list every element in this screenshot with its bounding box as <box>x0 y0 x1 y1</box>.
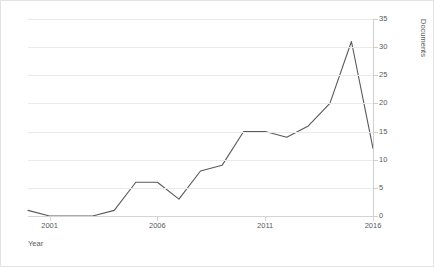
gridline-5 <box>28 188 373 189</box>
y-tick-label-5: 5 <box>379 184 383 192</box>
x-tick-label-2016: 2016 <box>353 221 393 230</box>
y-tick-mark-15 <box>374 132 378 133</box>
documents-line-series <box>28 19 373 216</box>
y-axis-title: Documents <box>419 19 431 119</box>
y-tick-mark-0 <box>374 216 378 217</box>
y-tick-label-10: 10 <box>379 156 387 164</box>
y-tick-mark-5 <box>374 188 378 189</box>
chart-figure: 05101520253035 2001200620112016 Document… <box>0 0 434 267</box>
gridline-25 <box>28 75 373 76</box>
y-tick-label-20: 20 <box>379 99 387 107</box>
gridline-35 <box>28 19 373 20</box>
y-tick-mark-20 <box>374 103 378 104</box>
x-tick-mark-2006 <box>157 217 158 221</box>
x-tick-mark-2011 <box>265 217 266 221</box>
x-axis-title: Year <box>28 239 43 248</box>
gridline-30 <box>28 47 373 48</box>
y-axis-title-text: Documents <box>419 19 428 57</box>
y-tick-mark-30 <box>374 47 378 48</box>
y-tick-label-15: 15 <box>379 128 387 136</box>
x-tick-label-2011: 2011 <box>245 221 285 230</box>
x-tick-mark-2016 <box>373 217 374 221</box>
x-axis-line <box>28 216 374 217</box>
x-tick-label-2001: 2001 <box>30 221 70 230</box>
y-axis-line <box>373 19 374 217</box>
line-path <box>28 42 373 216</box>
y-tick-label-0: 0 <box>379 212 383 220</box>
gridline-20 <box>28 103 373 104</box>
y-tick-mark-25 <box>374 75 378 76</box>
gridline-15 <box>28 132 373 133</box>
y-tick-mark-10 <box>374 160 378 161</box>
y-tick-label-35: 35 <box>379 15 387 23</box>
y-tick-label-25: 25 <box>379 71 387 79</box>
y-tick-mark-35 <box>374 19 378 20</box>
x-tick-mark-2001 <box>50 217 51 221</box>
y-tick-label-30: 30 <box>379 43 387 51</box>
gridline-10 <box>28 160 373 161</box>
x-tick-label-2006: 2006 <box>137 221 177 230</box>
plot-area <box>28 19 373 216</box>
